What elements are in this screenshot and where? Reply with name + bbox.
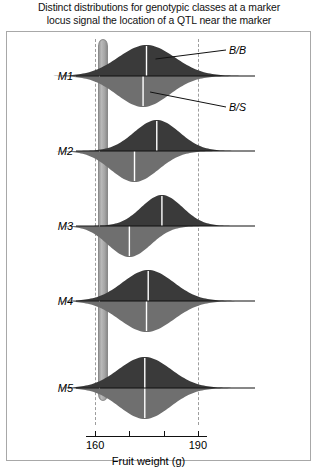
figure-panel: B/BB/S 160190 Fruit weight (g) M1M2M3M4M… (6, 31, 311, 461)
caption-line-1: Distinct distributions for genotypic cla… (0, 1, 318, 14)
distribution-bb-m1 (51, 45, 242, 76)
baseline-m1 (100, 76, 255, 77)
callout-label-bb: B/B (229, 44, 246, 56)
distribution-bb-m4 (62, 270, 234, 301)
marker-tick-m1 (76, 76, 99, 77)
chromosome-bar (98, 39, 108, 401)
baseline-m4 (100, 301, 255, 302)
leader-line-bs (150, 92, 226, 107)
distribution-pair-m1 (7, 32, 312, 462)
marker-label-m4: M4 (43, 295, 73, 307)
axis-tick-180 (164, 431, 165, 436)
callout-label-bs: B/S (229, 101, 246, 113)
x-axis-title: Fruit weight (g) (112, 455, 185, 467)
distribution-pair-m5 (7, 32, 312, 462)
distribution-bb-m3 (92, 195, 232, 226)
plot-area: B/BB/S 160190 Fruit weight (g) M1M2M3M4M… (7, 32, 310, 460)
leader-line-bb (156, 50, 227, 59)
reference-line-160 (95, 39, 96, 425)
distribution-pair-m4 (7, 32, 312, 462)
axis-tick-label-160: 160 (86, 439, 104, 451)
reference-line-190 (198, 39, 199, 425)
callout-leader-lines (7, 32, 312, 462)
marker-label-m5: M5 (43, 382, 73, 394)
axis-tick-label-190: 190 (189, 439, 207, 451)
distribution-bs-m3 (57, 226, 201, 257)
axis-tick-160 (95, 431, 96, 436)
baseline-m2 (100, 151, 255, 152)
baseline-m5 (100, 388, 255, 389)
marker-tick-m4 (76, 301, 99, 302)
marker-tick-m2 (76, 151, 99, 152)
distribution-bs-m4 (56, 301, 238, 332)
marker-tick-m3 (76, 226, 99, 227)
distribution-bs-m1 (55, 76, 232, 107)
distribution-bb-m5 (56, 357, 233, 388)
distribution-bs-m2 (54, 151, 215, 182)
marker-tick-m5 (76, 388, 99, 389)
axis-tick-190 (198, 431, 199, 436)
axis-tick-170 (129, 431, 130, 436)
distribution-pair-m2 (7, 32, 312, 462)
baseline-m3 (100, 226, 255, 227)
figure-caption: Distinct distributions for genotypic cla… (0, 1, 318, 27)
marker-label-m3: M3 (43, 220, 73, 232)
caption-line-2: locus signal the location of a QTL near … (0, 14, 318, 27)
distribution-pair-m3 (7, 32, 312, 462)
x-axis-line (86, 436, 207, 437)
marker-label-m2: M2 (43, 145, 73, 157)
marker-label-m1: M1 (43, 70, 73, 82)
distribution-bs-m5 (59, 388, 231, 419)
